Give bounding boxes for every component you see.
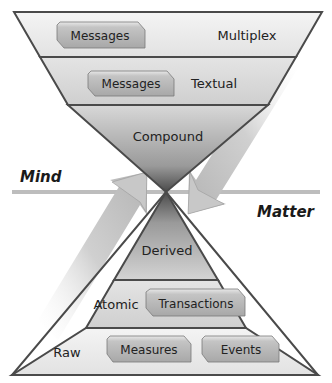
band-label-atomic: Atomic bbox=[93, 297, 138, 312]
tag-label-transactions: Transactions bbox=[158, 297, 234, 311]
tag-label-events: Events bbox=[221, 343, 262, 357]
tag-label-measures: Measures bbox=[120, 343, 177, 357]
band-label-raw: Raw bbox=[53, 345, 81, 360]
band-label-compound: Compound bbox=[133, 129, 204, 144]
tag-label-messages-2: Messages bbox=[102, 77, 161, 91]
label-matter: Matter bbox=[257, 203, 316, 221]
band-label-textual: Textual bbox=[190, 76, 237, 91]
band-label-derived: Derived bbox=[142, 243, 193, 258]
band-label-multiplex: Multiplex bbox=[217, 28, 276, 43]
tag-label-messages-1: Messages bbox=[71, 29, 130, 43]
hourglass-diagram: Messages Multiplex Messages Textual Comp… bbox=[0, 0, 332, 383]
label-mind: Mind bbox=[20, 168, 62, 186]
